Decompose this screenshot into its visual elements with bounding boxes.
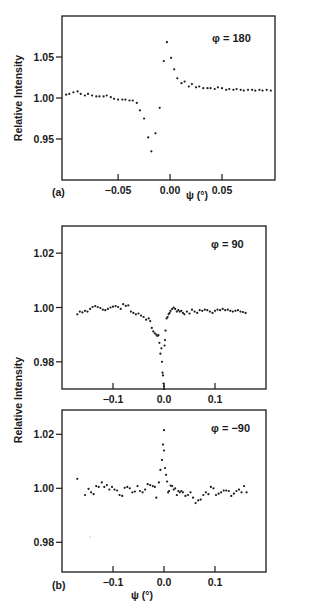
data-point <box>168 490 170 492</box>
data-point <box>180 82 182 84</box>
data-point <box>242 311 244 313</box>
panel-label-b: (b) <box>52 579 65 591</box>
data-point <box>225 489 227 491</box>
data-point <box>151 327 153 329</box>
data-point <box>220 491 222 493</box>
data-point <box>116 489 118 491</box>
data-point <box>174 308 176 310</box>
y-tick-label: 1.00 <box>34 482 55 494</box>
data-point <box>165 474 167 476</box>
data-point <box>206 309 208 311</box>
data-point <box>106 94 108 96</box>
data-point <box>137 312 139 314</box>
data-point <box>111 486 113 488</box>
data-point <box>163 429 165 431</box>
data-point <box>163 385 165 387</box>
phi-annotation-b-top: φ = 90 <box>211 238 244 250</box>
data-point <box>159 353 161 355</box>
data-point <box>99 307 101 309</box>
x-tick-label: 0.00 <box>160 184 181 196</box>
data-point <box>131 491 133 493</box>
data-point <box>270 90 272 92</box>
data-point <box>163 388 165 390</box>
data-point <box>144 489 146 491</box>
x-ticks-b-bottom: −0.10.00.1 <box>103 566 223 588</box>
data-point <box>124 99 126 101</box>
data-point <box>188 312 190 314</box>
phi-annotation-b-bottom: φ = −90 <box>211 422 250 434</box>
data-point <box>224 309 226 311</box>
data-point <box>84 94 86 96</box>
data-point <box>164 330 166 332</box>
data-point <box>229 310 231 312</box>
data-point <box>182 491 184 493</box>
x-tick-label: 0.0 <box>157 576 172 588</box>
data-point <box>124 487 126 489</box>
data-point <box>163 344 165 346</box>
data-point <box>127 304 129 306</box>
data-point <box>134 490 136 492</box>
data-point <box>171 485 173 487</box>
data-point <box>237 309 239 311</box>
x-tick-label: −0.05 <box>105 184 132 196</box>
data-point <box>184 81 186 83</box>
data-point <box>113 489 115 491</box>
data-point <box>95 95 97 97</box>
data-point <box>232 311 234 313</box>
data-point <box>225 89 227 91</box>
y-tick-label: 1.05 <box>34 51 55 63</box>
data-point <box>108 489 110 491</box>
x-axis-label-b: ψ (°) <box>131 589 153 601</box>
data-point <box>201 310 203 312</box>
y-tick-label: 1.02 <box>34 428 55 440</box>
stray-mark <box>89 536 90 537</box>
data-point <box>122 303 124 305</box>
data-point <box>121 99 123 101</box>
data-point <box>143 316 145 318</box>
data-point <box>103 95 105 97</box>
data-point <box>266 89 268 91</box>
data-point <box>125 305 127 307</box>
data-point <box>191 309 193 311</box>
data-point <box>160 347 162 349</box>
data-point <box>235 490 237 492</box>
y-tick-label: 0.98 <box>34 356 55 368</box>
data-point <box>207 493 209 495</box>
data-point <box>218 493 220 495</box>
data-point <box>104 309 106 311</box>
data-point <box>129 487 131 489</box>
data-point <box>243 485 245 487</box>
data-point <box>163 449 165 451</box>
data-point <box>87 488 89 490</box>
data-point <box>135 313 137 315</box>
data-point <box>206 87 208 89</box>
data-point <box>109 306 111 308</box>
data-point <box>198 85 200 87</box>
data-point <box>161 372 163 374</box>
data-point <box>89 308 91 310</box>
data-point <box>150 150 152 152</box>
data-point <box>93 493 95 495</box>
data-point <box>161 459 163 461</box>
data-point <box>113 98 115 100</box>
data-point <box>103 486 105 488</box>
data-point <box>152 330 154 332</box>
data-point <box>219 309 221 311</box>
data-point <box>110 96 112 98</box>
data-point <box>80 93 82 95</box>
y-tick-label: 1.00 <box>34 302 55 314</box>
data-point <box>233 493 235 495</box>
data-point <box>143 117 145 119</box>
data-point <box>202 494 204 496</box>
data-point <box>162 383 164 385</box>
data-point <box>157 334 159 336</box>
data-point <box>117 306 119 308</box>
data-point <box>214 88 216 90</box>
data-point <box>195 86 197 88</box>
data-points-a <box>65 41 272 152</box>
data-point <box>158 342 160 344</box>
data-point <box>126 486 128 488</box>
data-point <box>194 311 196 313</box>
data-point <box>140 315 142 317</box>
data-point <box>221 87 223 89</box>
